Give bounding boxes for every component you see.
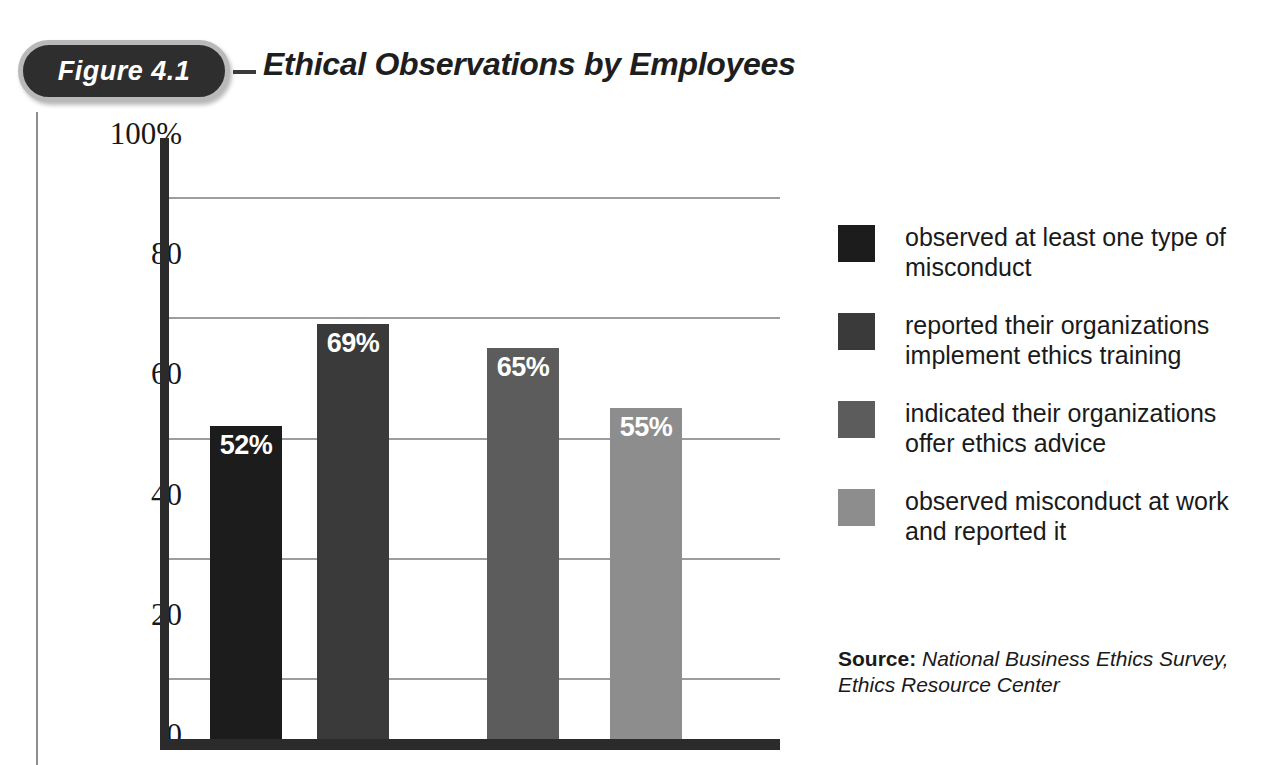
bar-value-label: 69% [317,328,389,359]
figure-number-label: Figure 4.1 [58,56,191,87]
y-axis-tick-label: 20 [151,597,182,633]
legend-label: indicated their organizations offer ethi… [905,398,1258,458]
source-note: Source: National Business Ethics Survey,… [838,646,1258,698]
legend-label: observed misconduct at work and reported… [905,486,1258,546]
y-axis-line [160,138,169,750]
y-axis-tick-label: 80 [151,236,182,272]
source-label: Source: [838,647,916,670]
gridline [169,197,780,199]
bar-value-label: 52% [210,430,282,461]
y-axis-tick-label: 100% [110,116,182,152]
bar-2: 69% [317,324,389,739]
legend-item-4: observed misconduct at work and reported… [838,486,1258,546]
legend-label: reported their organizations implement e… [905,310,1258,370]
chart-legend: observed at least one type of misconduct… [838,222,1258,574]
bar-value-label: 55% [610,412,682,443]
chart-title: Ethical Observations by Employees [263,46,796,83]
x-axis-line [160,739,780,750]
legend-item-2: reported their organizations implement e… [838,310,1258,370]
legend-swatch [838,313,875,350]
y-axis-tick-label: 40 [151,477,182,513]
gridline [169,438,780,440]
gridline [169,317,780,319]
title-dash-separator [233,70,256,74]
figure-number-badge: Figure 4.1 [18,40,230,102]
gridline [169,558,780,560]
legend-item-1: observed at least one type of misconduct [838,222,1258,282]
legend-item-3: indicated their organizations offer ethi… [838,398,1258,458]
legend-label: observed at least one type of misconduct [905,222,1258,282]
y-axis-tick-label: 0 [167,717,183,753]
bar-4: 55% [610,408,682,739]
gridline [169,678,780,680]
y-axis-tick-label: 60 [151,356,182,392]
bar-3: 65% [487,348,559,739]
left-margin-rule [36,112,38,765]
legend-swatch [838,401,875,438]
legend-swatch [838,225,875,262]
bar-1: 52% [210,426,282,739]
bar-value-label: 65% [487,352,559,383]
legend-swatch [838,489,875,526]
